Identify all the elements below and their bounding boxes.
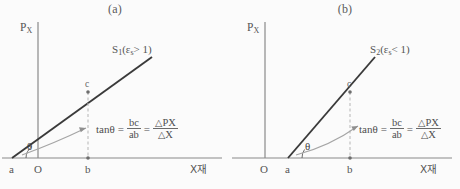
- panel-a: (a) PX X재 S1(εs> 1) c: [0, 0, 230, 189]
- panel-a-formula-eq1: =: [118, 123, 124, 135]
- panel-b-theta-label: θ: [305, 141, 310, 152]
- panel-a-x-axis-label: X재: [190, 164, 207, 175]
- panel-a-formula: tanθ = bc ab = △PX △X: [96, 117, 178, 141]
- panel-b-formula-frac2-num: △PX: [416, 117, 441, 129]
- panel-b-formula-frac1: bc ab: [390, 117, 404, 141]
- panel-b-point-c-label: c: [347, 80, 351, 90]
- panel-a-formula-lhs: tanθ: [96, 123, 115, 135]
- panel-b-y-axis-label: PX: [247, 22, 259, 35]
- panel-b-point-b: [348, 156, 352, 160]
- panel-a-supply-line: [12, 57, 152, 158]
- panel-b-tick-a: a: [285, 164, 290, 175]
- panel-a-theta-label: θ: [27, 141, 32, 152]
- panel-a-graphics: [0, 0, 230, 189]
- panel-b-supply-line: [288, 57, 375, 158]
- figure-container: (a) PX X재 S1(εs> 1) c: [0, 0, 460, 189]
- panel-a-formula-eq2: =: [144, 123, 150, 135]
- panel-a-formula-frac1-den: ab: [127, 129, 141, 140]
- panel-a-point-b: [86, 156, 90, 160]
- panel-a-point-c-label: c: [85, 80, 89, 90]
- panel-b-formula-frac2: △PX △X: [416, 117, 441, 141]
- panel-a-formula-frac2-den: △X: [156, 129, 175, 140]
- panel-b-formula-lhs: tanθ: [359, 123, 378, 135]
- panel-b-formula-frac2-den: △X: [419, 129, 438, 140]
- panel-b-formula-eq1: =: [381, 123, 387, 135]
- panel-b-graphics: [230, 0, 460, 189]
- panel-b-formula-frac1-num: bc: [390, 117, 404, 129]
- panel-b-formula-frac1-den: ab: [390, 129, 404, 140]
- panel-b-tick-origin: O: [260, 164, 268, 175]
- panel-b: (b) PX X재 S2(εs< 1) c θ O a b tanθ = bc …: [230, 0, 460, 189]
- panel-a-curve-label: S1(εs> 1): [112, 44, 152, 57]
- panel-b-x-axis-label: X재: [420, 164, 437, 175]
- panel-a-formula-frac2-num: △PX: [153, 117, 178, 129]
- panel-b-formula: tanθ = bc ab = △PX △X: [359, 117, 441, 141]
- panel-a-formula-frac1-num: bc: [127, 117, 141, 129]
- panel-b-point-c: [348, 90, 352, 94]
- panel-a-tick-b: b: [85, 164, 91, 175]
- panel-a-formula-frac1: bc ab: [127, 117, 141, 141]
- panel-a-tick-a: a: [9, 164, 14, 175]
- panel-b-curve-label: S2(εs< 1): [370, 44, 410, 57]
- panel-a-formula-frac2: △PX △X: [153, 117, 178, 141]
- panel-b-tick-b: b: [347, 164, 353, 175]
- panel-a-tick-origin: O: [34, 164, 42, 175]
- panel-a-point-c: [86, 90, 90, 94]
- panel-a-y-axis-label: PX: [20, 22, 32, 35]
- panel-b-formula-eq2: =: [407, 123, 413, 135]
